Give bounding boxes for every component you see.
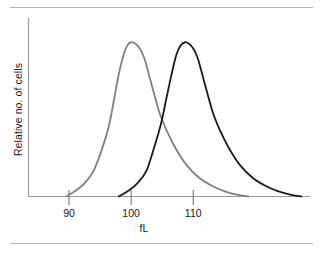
x-tick-label: 100 — [111, 207, 151, 219]
x-axis-label: fL — [104, 223, 184, 234]
x-tick-label: 110 — [173, 207, 213, 219]
y-axis-label: Relative no. of cells — [13, 45, 24, 175]
curve-left-distribution — [66, 42, 249, 196]
figure-container: Relative no. of cells fL 90100110 — [0, 0, 323, 253]
axes — [28, 18, 310, 197]
data-curves — [66, 42, 301, 196]
x-axis-ticks — [69, 190, 193, 205]
x-tick-label: 90 — [49, 207, 89, 219]
